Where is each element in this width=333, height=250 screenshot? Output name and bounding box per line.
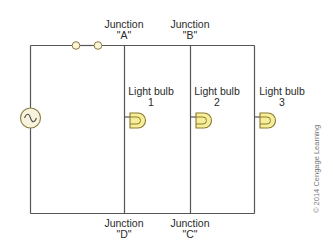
junction-b-name: "B" xyxy=(170,30,210,41)
junction-c-label: Junction "C" xyxy=(170,218,210,240)
light-bulb-3-icon xyxy=(260,113,276,128)
light-bulb-1-label: Light bulb 1 xyxy=(124,86,178,108)
light-bulb-1-icon xyxy=(130,113,146,128)
terminal-left-icon xyxy=(72,42,80,50)
ac-source-icon xyxy=(21,108,41,128)
light-bulb-3-number: 3 xyxy=(255,97,309,108)
light-bulb-2-icon xyxy=(196,113,212,128)
junction-b-label: Junction "B" xyxy=(170,19,210,41)
light-bulb-2-number: 2 xyxy=(190,97,244,108)
light-bulb-1-number: 1 xyxy=(124,97,178,108)
wires xyxy=(31,46,261,214)
light-bulb-2-label: Light bulb 2 xyxy=(190,86,244,108)
circuit-diagram xyxy=(0,0,333,250)
junction-a-label: Junction "A" xyxy=(104,19,144,41)
junction-c-name: "C" xyxy=(170,229,210,240)
light-bulb-3-label: Light bulb 3 xyxy=(255,86,309,108)
junction-a-name: "A" xyxy=(104,30,144,41)
junction-d-name: "D" xyxy=(104,229,144,240)
terminal-right-icon xyxy=(94,42,102,50)
junction-d-label: Junction "D" xyxy=(104,218,144,240)
copyright-credit: © 2014 Cengage Learning xyxy=(312,125,321,213)
